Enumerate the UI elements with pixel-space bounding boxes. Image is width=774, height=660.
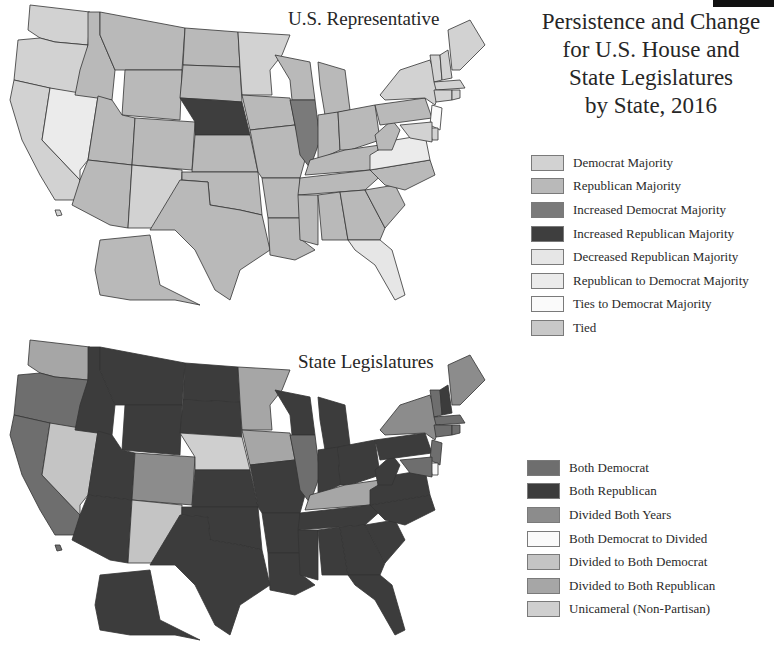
state-ar xyxy=(262,513,300,553)
legend-label: Divided to Both Republican xyxy=(569,578,715,594)
legend-item: Divided to Both Democrat xyxy=(527,550,715,574)
state-ar xyxy=(262,178,300,218)
legend-label: Unicameral (Non-Partisan) xyxy=(569,601,710,617)
legislature-map xyxy=(0,330,520,660)
legend-swatch xyxy=(527,531,560,547)
state-co xyxy=(132,453,195,505)
title-line: for U.S. House and xyxy=(528,36,774,64)
legend-label: Divided to Both Democrat xyxy=(569,554,707,570)
legend-item: Increased Republican Majority xyxy=(531,222,749,246)
legend-swatch xyxy=(531,296,564,312)
legend-swatch xyxy=(531,320,564,336)
legend-item: Divided Both Years xyxy=(527,503,715,527)
state-ma xyxy=(434,80,465,90)
legend-item: Both Democrat to Divided xyxy=(527,527,715,551)
legend-swatch xyxy=(527,554,560,570)
legend-label: Divided Both Years xyxy=(569,507,671,523)
title-line: State Legislatures xyxy=(528,64,774,92)
legend-label: Decreased Republican Majority xyxy=(573,249,738,265)
state-ri xyxy=(452,425,460,435)
legend-label: Republican to Democrat Majority xyxy=(573,273,749,289)
legend-item: Republican Majority xyxy=(531,175,749,199)
state-wi xyxy=(275,55,315,100)
legend-swatch xyxy=(527,460,560,476)
legend-swatch xyxy=(527,601,560,617)
state-wy xyxy=(122,70,182,120)
state-ak xyxy=(95,570,200,640)
state-mi xyxy=(318,397,350,450)
state-fl xyxy=(348,575,405,635)
state-wy xyxy=(122,405,182,455)
legend-label: Both Republican xyxy=(569,483,657,499)
state-ny xyxy=(380,395,440,440)
state-mi xyxy=(318,62,350,115)
legislature-map-label: State Legislatures xyxy=(298,351,434,373)
state-ms xyxy=(298,195,318,245)
legend-swatch xyxy=(527,578,560,594)
legend-label: Republican Majority xyxy=(573,178,681,194)
legend-item: Both Democrat xyxy=(527,456,715,480)
legend-swatch xyxy=(527,483,560,499)
title-line: by State, 2016 xyxy=(528,92,774,120)
state-ks xyxy=(192,135,258,172)
house-legend: Democrat MajorityRepublican MajorityIncr… xyxy=(531,151,749,340)
corner-decoration xyxy=(713,0,774,7)
state-sd xyxy=(180,400,242,437)
state-pa xyxy=(375,98,432,125)
page-title: Persistence and Change for U.S. House an… xyxy=(528,8,774,120)
state-me xyxy=(448,20,485,70)
legend-item: Democrat Majority xyxy=(531,151,749,175)
state-mt xyxy=(100,12,185,70)
legend-item: Decreased Republican Majority xyxy=(531,245,749,269)
legend-label: Both Democrat xyxy=(569,460,649,476)
legend-swatch xyxy=(531,249,564,265)
house-map xyxy=(0,0,520,320)
legend-label: Increased Republican Majority xyxy=(573,226,734,242)
legend-label: Increased Democrat Majority xyxy=(573,202,726,218)
state-ia xyxy=(242,95,295,130)
legend-item: Tied xyxy=(531,316,749,340)
state-ak xyxy=(95,235,200,305)
state-oh xyxy=(338,440,380,485)
legend-swatch xyxy=(531,178,564,194)
legend-swatch xyxy=(527,507,560,523)
legend-swatch xyxy=(531,226,564,242)
legend-item: Unicameral (Non-Partisan) xyxy=(527,598,715,622)
state-co xyxy=(132,118,195,170)
state-nd xyxy=(183,363,240,402)
legend-swatch xyxy=(531,273,564,289)
state-hi xyxy=(55,545,62,551)
legend-label: Ties to Democrat Majority xyxy=(573,296,712,312)
state-fl xyxy=(348,240,405,300)
legend-label: Democrat Majority xyxy=(573,155,673,171)
legend-item: Republican to Democrat Majority xyxy=(531,269,749,293)
legend-item: Both Republican xyxy=(527,480,715,504)
state-ms xyxy=(298,530,318,580)
state-ia xyxy=(242,430,295,465)
state-pa xyxy=(375,433,432,460)
legend-item: Ties to Democrat Majority xyxy=(531,293,749,317)
state-ny xyxy=(380,60,440,105)
title-line: Persistence and Change xyxy=(528,8,774,36)
state-az xyxy=(72,160,132,228)
state-ct xyxy=(434,90,452,102)
state-ks xyxy=(192,470,258,507)
legend-label: Both Democrat to Divided xyxy=(569,531,707,547)
state-ma xyxy=(434,415,465,425)
legend-label: Tied xyxy=(573,320,596,336)
state-oh xyxy=(338,105,380,150)
state-nd xyxy=(183,28,240,67)
state-sd xyxy=(180,65,242,102)
legislature-legend: Both DemocratBoth RepublicanDivided Both… xyxy=(527,456,715,621)
state-az xyxy=(72,495,132,563)
legend-swatch xyxy=(531,155,564,171)
legend-swatch xyxy=(531,202,564,218)
legend-item: Divided to Both Republican xyxy=(527,574,715,598)
state-wi xyxy=(275,390,315,435)
state-hi xyxy=(55,210,62,216)
legend-item: Increased Democrat Majority xyxy=(531,198,749,222)
state-me xyxy=(448,355,485,405)
state-ct xyxy=(434,425,452,437)
house-map-label: U.S. Representative xyxy=(288,8,439,30)
state-ri xyxy=(452,90,460,100)
